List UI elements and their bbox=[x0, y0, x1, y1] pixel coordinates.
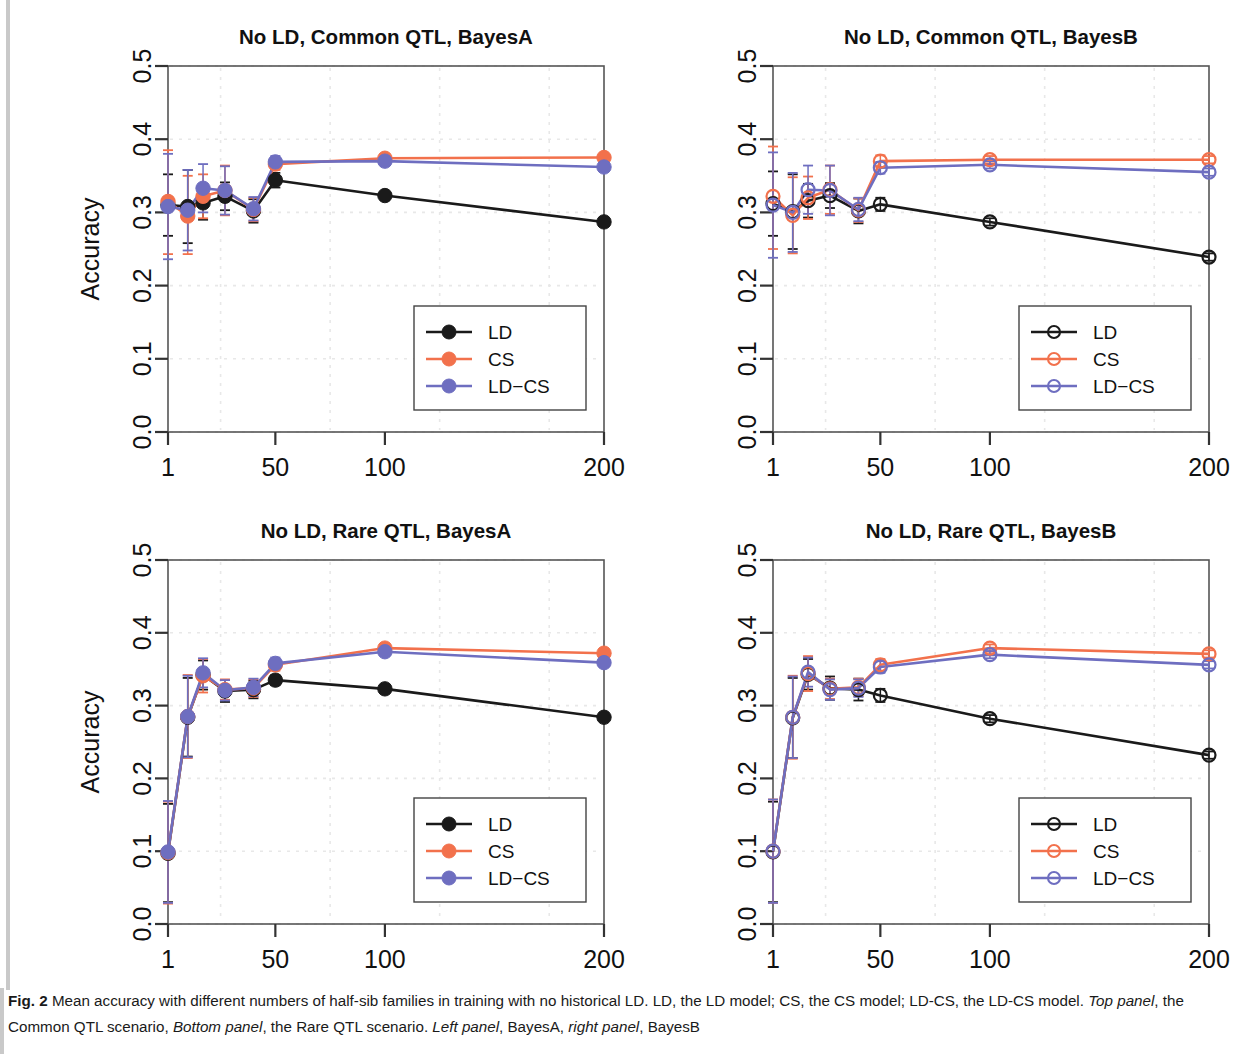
y-tick-label: 0.5 bbox=[128, 49, 156, 84]
x-tick-label: 200 bbox=[1188, 453, 1230, 481]
x-tick-label: 1 bbox=[161, 453, 175, 481]
y-axis-title: Accuracy bbox=[76, 197, 104, 300]
caption-italic-2: Bottom panel bbox=[173, 1018, 263, 1035]
x-tick-label: 50 bbox=[866, 945, 894, 973]
chart-legend: LDCSLD−CS bbox=[1019, 798, 1191, 902]
legend-label-CS: CS bbox=[488, 841, 514, 862]
y-tick-label: 0.2 bbox=[128, 761, 156, 796]
figure-label: Fig. 2 bbox=[8, 992, 48, 1009]
caption-text-3: , the Rare QTL scenario. bbox=[262, 1018, 432, 1035]
legend-label-LD-CS: LD−CS bbox=[488, 868, 550, 889]
x-tick-label: 1 bbox=[766, 453, 780, 481]
caption-text-5: , BayesB bbox=[639, 1018, 700, 1035]
series-markers-LD bbox=[767, 189, 1216, 263]
y-tick-label: 0.1 bbox=[733, 341, 761, 376]
legend-label-CS: CS bbox=[488, 349, 514, 370]
legend-marker-LD bbox=[442, 817, 456, 831]
x-tick-label: 100 bbox=[364, 945, 406, 973]
caption-italic-1: Top panel bbox=[1088, 992, 1154, 1009]
figure-2: No LD, Common QTL, BayesA0.00.10.20.30.4… bbox=[0, 0, 1243, 1057]
legend-marker-LD-CS bbox=[442, 379, 456, 393]
figure-caption: Fig. 2 Mean accuracy with different numb… bbox=[8, 988, 1236, 1040]
y-tick-label: 0.1 bbox=[733, 834, 761, 869]
legend-label-CS: CS bbox=[1093, 841, 1119, 862]
chart-panel-grid: No LD, Common QTL, BayesA0.00.10.20.30.4… bbox=[0, 0, 1243, 985]
x-tick-label: 100 bbox=[969, 453, 1011, 481]
y-tick-label: 0.4 bbox=[733, 122, 761, 157]
y-tick-label: 0.4 bbox=[128, 615, 156, 650]
y-tick-label: 0.4 bbox=[128, 122, 156, 157]
legend-label-LD-CS: LD−CS bbox=[1093, 376, 1155, 397]
legend-label-LD: LD bbox=[488, 322, 512, 343]
chart-legend: LDCSLD−CS bbox=[414, 306, 586, 410]
y-tick-label: 0.5 bbox=[733, 49, 761, 84]
x-tick-label: 100 bbox=[364, 453, 406, 481]
panel-title: No LD, Rare QTL, BayesB bbox=[866, 519, 1117, 542]
series-markers-LD bbox=[161, 173, 611, 229]
y-tick-label: 0.4 bbox=[733, 615, 761, 650]
legend-marker-LD bbox=[1048, 326, 1060, 338]
caption-left-rule bbox=[0, 988, 4, 1054]
legend-label-LD-CS: LD−CS bbox=[1093, 868, 1155, 889]
caption-text-1: Mean accuracy with different numbers of … bbox=[48, 992, 1089, 1009]
legend-marker-LD bbox=[442, 325, 456, 339]
legend-marker-CS bbox=[442, 352, 456, 366]
chart-panel-bottom-left: No LD, Rare QTL, BayesA0.00.10.20.30.40.… bbox=[0, 508, 640, 986]
y-tick-label: 0.2 bbox=[733, 268, 761, 303]
y-tick-label: 0.5 bbox=[128, 543, 156, 578]
y-axis-title: Accuracy bbox=[76, 690, 104, 793]
legend-marker-CS bbox=[442, 844, 456, 858]
y-tick-label: 0.3 bbox=[128, 688, 156, 723]
y-tick-label: 0.1 bbox=[128, 834, 156, 869]
x-tick-label: 50 bbox=[261, 945, 289, 973]
chart-panel-bottom-right: No LD, Rare QTL, BayesB0.00.10.20.30.40.… bbox=[605, 508, 1243, 986]
series-markers-LD-CS bbox=[161, 154, 611, 217]
panel-title: No LD, Common QTL, BayesB bbox=[844, 25, 1138, 48]
y-tick-label: 0.0 bbox=[733, 907, 761, 942]
y-tick-label: 0.2 bbox=[128, 268, 156, 303]
legend-label-LD-CS: LD−CS bbox=[488, 376, 550, 397]
chart-panel-top-left: No LD, Common QTL, BayesA0.00.10.20.30.4… bbox=[0, 14, 640, 494]
y-tick-label: 0.3 bbox=[733, 195, 761, 230]
x-tick-label: 50 bbox=[866, 453, 894, 481]
legend-marker-LD-CS bbox=[1048, 872, 1060, 884]
y-tick-label: 0.5 bbox=[733, 543, 761, 578]
legend-label-LD: LD bbox=[488, 814, 512, 835]
series-markers-LD-CS bbox=[767, 158, 1216, 219]
errorbars-LD-CS bbox=[163, 154, 609, 259]
y-tick-label: 0.0 bbox=[128, 415, 156, 450]
legend-label-LD: LD bbox=[1093, 814, 1117, 835]
x-tick-label: 1 bbox=[766, 945, 780, 973]
y-tick-label: 0.3 bbox=[733, 688, 761, 723]
legend-marker-LD-CS bbox=[442, 871, 456, 885]
y-tick-label: 0.3 bbox=[128, 195, 156, 230]
caption-italic-4: right panel bbox=[568, 1018, 639, 1035]
y-tick-label: 0.1 bbox=[128, 341, 156, 376]
legend-marker-CS bbox=[1048, 845, 1060, 857]
caption-text-4: , BayesA, bbox=[499, 1018, 568, 1035]
x-tick-label: 50 bbox=[261, 453, 289, 481]
panel-title: No LD, Rare QTL, BayesA bbox=[261, 519, 512, 542]
legend-marker-LD bbox=[1048, 818, 1060, 830]
chart-panel-top-right: No LD, Common QTL, BayesB0.00.10.20.30.4… bbox=[605, 14, 1243, 494]
chart-legend: LDCSLD−CS bbox=[1019, 306, 1191, 410]
y-tick-label: 0.2 bbox=[733, 761, 761, 796]
x-tick-label: 200 bbox=[1188, 945, 1230, 973]
errorbars-LD bbox=[163, 170, 609, 243]
y-tick-label: 0.0 bbox=[128, 907, 156, 942]
chart-legend: LDCSLD−CS bbox=[414, 798, 586, 902]
panel-title: No LD, Common QTL, BayesA bbox=[239, 25, 533, 48]
legend-label-LD: LD bbox=[1093, 322, 1117, 343]
y-tick-label: 0.0 bbox=[733, 415, 761, 450]
legend-marker-CS bbox=[1048, 353, 1060, 365]
legend-marker-LD-CS bbox=[1048, 380, 1060, 392]
x-tick-label: 100 bbox=[969, 945, 1011, 973]
x-tick-label: 1 bbox=[161, 945, 175, 973]
legend-label-CS: CS bbox=[1093, 349, 1119, 370]
caption-italic-3: Left panel bbox=[432, 1018, 499, 1035]
